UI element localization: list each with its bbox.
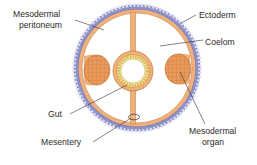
label-mesentery: Mesentery xyxy=(41,137,82,147)
label-organ-line2: organ xyxy=(202,137,224,147)
mesodermal-organ-right xyxy=(165,53,191,84)
label-organ-line1: Mesodermal xyxy=(189,126,236,136)
label-peritoneum-line2: peritoneum xyxy=(19,20,62,30)
label-gut: Gut xyxy=(48,109,62,119)
leader-ectoderm xyxy=(181,15,196,23)
gut xyxy=(113,51,153,91)
label-peritoneum-line1: Mesodermal xyxy=(13,9,60,19)
coelomate-cross-section-diagram: Mesodermal peritoneum Ectoderm Coelom Gu… xyxy=(0,0,257,165)
gut-lumen xyxy=(121,59,145,83)
coelom-space xyxy=(140,30,141,31)
label-ectoderm: Ectoderm xyxy=(199,10,236,20)
label-coelom: Coelom xyxy=(205,37,235,47)
mesodermal-organ-left xyxy=(84,54,110,85)
